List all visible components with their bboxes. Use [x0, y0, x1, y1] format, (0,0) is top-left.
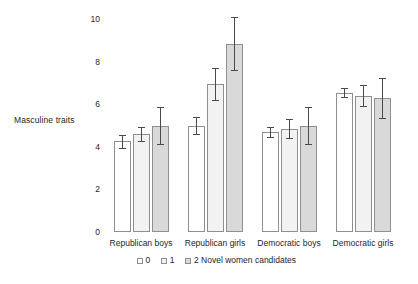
legend-swatch-icon: [185, 258, 191, 264]
bar: [262, 132, 279, 232]
bar: [281, 129, 298, 232]
error-bar-cap: [360, 85, 367, 86]
legend-label: 1: [170, 256, 175, 265]
error-bar-cap: [286, 138, 293, 139]
bar: [226, 44, 243, 233]
bar: [188, 126, 205, 233]
error-bar-stem: [122, 135, 123, 148]
error-bar-cap: [119, 135, 126, 136]
bar: [355, 96, 372, 232]
y-tick-2: 2: [80, 185, 100, 193]
y-tick-6: 6: [80, 100, 100, 108]
error-bar-stem: [382, 78, 383, 118]
bar: [336, 93, 353, 233]
error-bar-stem: [308, 107, 309, 143]
error-bar-cap: [231, 17, 238, 18]
error-bar-stem: [160, 107, 161, 143]
plot-area: [108, 19, 404, 232]
error-bar-cap: [138, 141, 145, 142]
bar: [207, 84, 224, 232]
legend-swatch-icon: [137, 258, 143, 264]
error-bar-cap: [157, 144, 164, 145]
error-bar-cap: [212, 100, 219, 101]
error-bar-cap: [212, 68, 219, 69]
error-bar-cap: [231, 70, 238, 71]
error-bar-cap: [379, 118, 386, 119]
error-bar-cap: [305, 107, 312, 108]
legend: 012 Novel women candidates: [137, 256, 296, 265]
error-bar-stem: [196, 117, 197, 134]
legend-entry-0: 0: [137, 256, 150, 265]
bar: [114, 141, 131, 232]
error-bar-cap: [267, 137, 274, 138]
error-bar-cap: [286, 119, 293, 120]
error-bar-cap: [119, 148, 126, 149]
error-bar-stem: [289, 119, 290, 138]
error-bar-cap: [267, 127, 274, 128]
error-bar-cap: [157, 107, 164, 108]
error-bar-cap: [379, 78, 386, 79]
y-tick-8: 8: [80, 58, 100, 66]
error-bar-stem: [344, 88, 345, 97]
legend-entry-1: 1: [161, 256, 174, 265]
y-tick-4: 4: [80, 143, 100, 151]
error-bar-stem: [363, 85, 364, 106]
category-label-3: Democratic girls: [318, 238, 408, 248]
legend-label: 2 Novel women candidates: [194, 256, 296, 265]
legend-label: 0: [146, 256, 151, 265]
bar: [133, 134, 150, 232]
error-bar-cap: [341, 88, 348, 89]
y-tick-10: 10: [80, 15, 100, 23]
error-bar-stem: [141, 127, 142, 142]
error-bar-stem: [270, 127, 271, 138]
legend-entry-2: 2 Novel women candidates: [185, 256, 296, 265]
error-bar-cap: [193, 134, 200, 135]
error-bar-stem: [215, 68, 216, 100]
error-bar-cap: [360, 106, 367, 107]
bar-chart: Masculine traits 0246810 Republican boys…: [0, 0, 418, 284]
error-bar-cap: [341, 97, 348, 98]
error-bar-cap: [305, 144, 312, 145]
y-axis-label: Masculine traits: [14, 115, 75, 125]
legend-swatch-icon: [161, 258, 167, 264]
error-bar-cap: [193, 117, 200, 118]
error-bar-cap: [138, 127, 145, 128]
y-tick-0: 0: [80, 228, 100, 236]
error-bar-stem: [234, 17, 235, 70]
